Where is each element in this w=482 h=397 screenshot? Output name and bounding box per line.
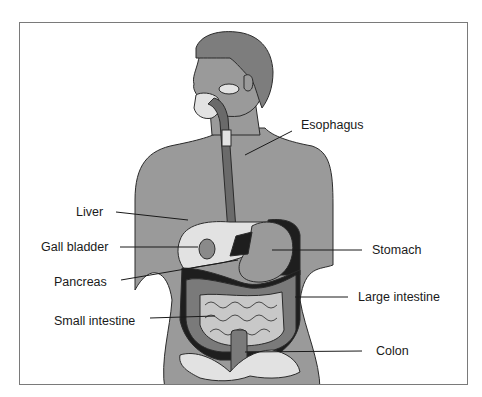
digestive-system-illustration <box>0 0 482 397</box>
label-gall-bladder: Gall bladder <box>41 240 108 254</box>
label-liver: Liver <box>76 205 103 219</box>
gall-bladder-organ <box>199 239 215 259</box>
label-stomach: Stomach <box>372 243 421 257</box>
label-large-intestine: Large intestine <box>358 290 440 304</box>
label-esophagus: Esophagus <box>301 118 364 132</box>
label-pancreas: Pancreas <box>54 275 107 289</box>
label-colon: Colon <box>376 344 409 358</box>
label-small-intestine: Small intestine <box>54 314 135 328</box>
ear <box>244 75 253 91</box>
